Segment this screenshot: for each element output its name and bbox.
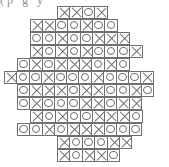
circle-symbol-cell[interactable] (92, 45, 105, 58)
cross-symbol-cell[interactable] (107, 136, 120, 149)
circle-symbol-cell[interactable] (129, 123, 142, 136)
cross-symbol-cell[interactable] (67, 58, 80, 71)
circle-symbol-cell[interactable] (104, 19, 117, 32)
circle-symbol-cell[interactable] (67, 32, 80, 45)
cross-symbol-cell[interactable] (67, 123, 80, 136)
cross-symbol-cell[interactable] (42, 84, 55, 97)
cross-symbol-cell[interactable] (79, 123, 92, 136)
cross-symbol-cell[interactable] (29, 97, 42, 110)
circle-symbol-cell[interactable] (42, 45, 55, 58)
circle-symbol-cell[interactable] (141, 84, 154, 97)
cross-symbol-cell[interactable] (82, 149, 95, 162)
circle-symbol-cell[interactable] (104, 97, 117, 110)
cross-symbol-cell[interactable] (29, 58, 42, 71)
circle-symbol-cell[interactable] (42, 32, 55, 45)
cross-symbol-cell[interactable] (42, 123, 55, 136)
circle-symbol-cell[interactable] (129, 110, 142, 123)
circle-symbol-cell[interactable] (55, 19, 68, 32)
cross-symbol-cell[interactable] (79, 58, 92, 71)
circle-symbol-cell[interactable] (30, 32, 43, 45)
circle-symbol-cell[interactable] (128, 71, 141, 84)
circle-symbol-cell[interactable] (82, 136, 95, 149)
cross-symbol-cell[interactable] (117, 32, 130, 45)
circle-symbol-cell[interactable] (17, 97, 30, 110)
cross-symbol-cell[interactable] (94, 149, 107, 162)
circle-symbol-cell[interactable] (80, 110, 93, 123)
circle-symbol-cell[interactable] (91, 58, 104, 71)
cross-symbol-cell[interactable] (42, 19, 55, 32)
cross-symbol-cell[interactable] (91, 84, 104, 97)
circle-symbol-cell[interactable] (80, 32, 93, 45)
circle-symbol-cell[interactable] (67, 84, 80, 97)
cross-symbol-cell[interactable] (41, 71, 54, 84)
cross-symbol-cell[interactable] (54, 58, 67, 71)
circle-symbol-cell[interactable] (66, 71, 79, 84)
cross-symbol-cell[interactable] (57, 149, 70, 162)
circle-symbol-cell[interactable] (54, 71, 67, 84)
cross-symbol-cell[interactable] (94, 6, 107, 19)
cross-symbol-cell[interactable] (79, 84, 92, 97)
circle-symbol-cell[interactable] (29, 71, 42, 84)
cross-symbol-cell[interactable] (55, 110, 68, 123)
cross-symbol-cell[interactable] (69, 6, 82, 19)
cross-symbol-cell[interactable] (117, 110, 130, 123)
circle-symbol-cell[interactable] (54, 97, 67, 110)
circle-symbol-cell[interactable] (17, 84, 30, 97)
cross-symbol-cell[interactable] (104, 110, 117, 123)
circle-symbol-cell[interactable] (67, 110, 80, 123)
circle-symbol-cell[interactable] (107, 149, 120, 162)
circle-symbol-cell[interactable] (94, 136, 107, 149)
circle-symbol-cell[interactable] (67, 97, 80, 110)
cross-symbol-cell[interactable] (55, 32, 68, 45)
circle-symbol-cell[interactable] (69, 149, 82, 162)
cross-symbol-cell[interactable] (57, 6, 70, 19)
cross-symbol-cell[interactable] (104, 32, 117, 45)
circle-symbol-cell[interactable] (67, 19, 80, 32)
circle-symbol-cell[interactable] (82, 6, 95, 19)
cross-symbol-cell[interactable] (91, 97, 104, 110)
circle-symbol-cell[interactable] (17, 58, 30, 71)
cross-symbol-cell[interactable] (91, 71, 104, 84)
circle-symbol-cell[interactable] (116, 123, 129, 136)
cross-symbol-cell[interactable] (29, 84, 42, 97)
circle-symbol-cell[interactable] (54, 123, 67, 136)
circle-symbol-cell[interactable] (17, 123, 30, 136)
circle-symbol-cell[interactable] (29, 123, 42, 136)
cross-symbol-cell[interactable] (92, 110, 105, 123)
cross-symbol-cell[interactable] (129, 84, 142, 97)
circle-symbol-cell[interactable] (42, 97, 55, 110)
cross-symbol-cell[interactable] (129, 45, 142, 58)
cross-symbol-cell[interactable] (92, 32, 105, 45)
cross-symbol-cell[interactable] (30, 19, 43, 32)
circle-symbol-cell[interactable] (116, 58, 129, 71)
circle-symbol-cell[interactable] (117, 45, 130, 58)
cross-symbol-cell[interactable] (79, 97, 92, 110)
cross-symbol-cell[interactable] (140, 71, 153, 84)
circle-symbol-cell[interactable] (104, 123, 117, 136)
cross-symbol-cell[interactable] (80, 45, 93, 58)
circle-symbol-cell[interactable] (16, 71, 29, 84)
cross-symbol-cell[interactable] (30, 110, 43, 123)
circle-symbol-cell[interactable] (78, 71, 91, 84)
circle-symbol-cell[interactable] (69, 136, 82, 149)
cross-symbol-cell[interactable] (91, 123, 104, 136)
circle-symbol-cell[interactable] (104, 84, 117, 97)
circle-symbol-cell[interactable] (92, 19, 105, 32)
circle-symbol-cell[interactable] (67, 45, 80, 58)
circle-symbol-cell[interactable] (104, 45, 117, 58)
circle-symbol-cell[interactable] (103, 71, 116, 84)
cross-symbol-cell[interactable] (30, 45, 43, 58)
circle-symbol-cell[interactable] (116, 84, 129, 97)
circle-symbol-cell[interactable] (42, 58, 55, 71)
cross-symbol-cell[interactable] (54, 84, 67, 97)
circle-symbol-cell[interactable] (116, 71, 129, 84)
cross-symbol-cell[interactable] (80, 19, 93, 32)
cross-symbol-cell[interactable] (4, 71, 17, 84)
cross-symbol-cell[interactable] (55, 45, 68, 58)
cross-symbol-cell[interactable] (116, 97, 129, 110)
cross-symbol-cell[interactable] (129, 97, 142, 110)
cross-symbol-cell[interactable] (119, 136, 132, 149)
circle-symbol-cell[interactable] (42, 110, 55, 123)
cross-symbol-cell[interactable] (104, 58, 117, 71)
cross-symbol-cell[interactable] (57, 136, 70, 149)
